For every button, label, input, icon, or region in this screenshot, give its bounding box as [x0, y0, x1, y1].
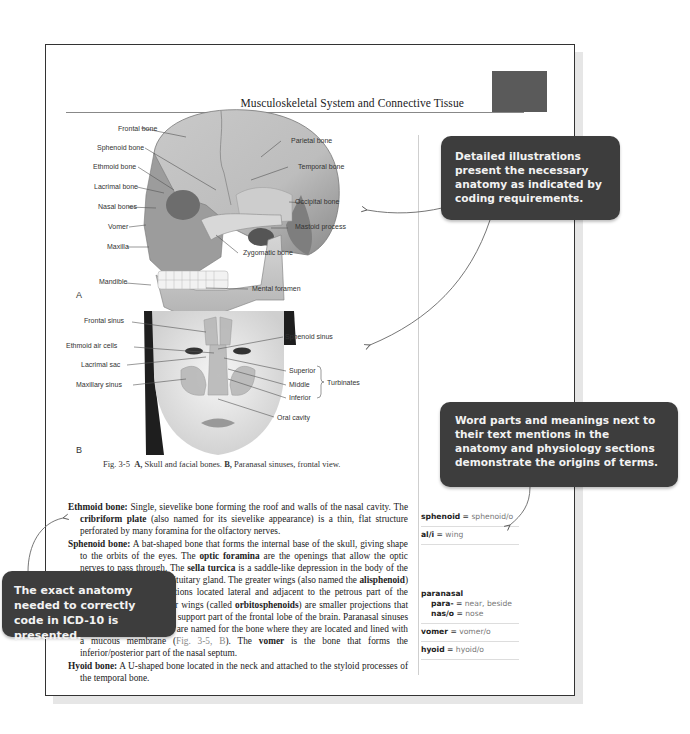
keyword-sella-turcica: sella turcica: [187, 563, 235, 573]
caption-b-text: Paranasal sinuses, frontal view.: [234, 459, 340, 469]
callout-illustrations: Detailed illustrations present the neces…: [441, 136, 620, 220]
keyword-cribriform-plate: cribriform plate: [80, 514, 146, 524]
glossary-def: sphenoid/o: [471, 512, 513, 521]
entry-hyoid-bone: Hyoid bone: A U-shaped bone located in t…: [68, 660, 408, 684]
term-sphenoid-bone: Sphenoid bone:: [68, 539, 130, 549]
glossary-def: vomer/o: [459, 627, 491, 636]
callout-exact-anatomy: The exact anatomy needed to correctly co…: [2, 571, 176, 637]
label-superior: Superior: [289, 367, 315, 374]
equals: =: [434, 530, 445, 539]
keyword-vomer: vomer: [259, 636, 284, 646]
label-lacrimal-sac: Lacrimal sac: [81, 361, 120, 368]
text: A U-shaped bone located in the neck and …: [80, 661, 408, 683]
glossary-term: vomer: [421, 627, 448, 636]
equals: =: [448, 627, 459, 636]
glossary-term: paranasal: [421, 589, 463, 598]
text: Single, sievelike bone forming the roof …: [128, 502, 408, 512]
caption-a-letter: A,: [134, 459, 142, 469]
caption-fig-number: Fig. 3-5: [103, 459, 130, 469]
keyword-optic-foramina: optic foramina: [199, 551, 259, 561]
label-oral-cavity: Oral cavity: [277, 414, 310, 421]
glossary-item-paranasal: paranasal para- = near, beside nas/o = n…: [421, 586, 519, 624]
glossary-item-sphenoid: sphenoid = sphenoid/o: [421, 509, 519, 527]
glossary-term: sphenoid: [421, 512, 460, 521]
glossary-term: nas/o: [431, 609, 454, 618]
chapter-tab-block: [492, 71, 547, 112]
glossary-sphenoid-group: sphenoid = sphenoid/o al/i = wing: [421, 509, 519, 545]
callout-word-parts: Word parts and meanings next to their te…: [440, 402, 678, 487]
glossary-def: wing: [445, 530, 463, 539]
term-ethmoid-bone: Ethmoid bone:: [68, 502, 128, 512]
term-hyoid-bone: Hyoid bone:: [68, 661, 117, 671]
glossary-def: nose: [465, 609, 483, 618]
panel-letter-b: B: [76, 445, 82, 455]
glossary-term: para-: [431, 599, 454, 608]
label-middle: Middle: [289, 381, 310, 388]
glossary-item-vomer: vomer = vomer/o: [421, 624, 519, 642]
face-sinus-illustration: [46, 45, 426, 465]
keyword-orbitosphenoids: orbitosphenoids: [235, 600, 299, 610]
glossary-term: al/i: [421, 530, 434, 539]
caption-a-text: Skull and facial bones.: [145, 459, 222, 469]
glossary-item-hyoid: hyoid = hyoid/o: [421, 642, 519, 660]
equals: =: [454, 599, 465, 608]
glossary-def: hyoid/o: [456, 645, 484, 654]
label-sphenoid-sinus: Sphenoid sinus: [285, 333, 333, 340]
figure-reference-link[interactable]: Fig. 3-5, B: [176, 636, 225, 646]
equals: =: [454, 609, 465, 618]
entry-ethmoid-bone: Ethmoid bone: Single, sievelike bone for…: [68, 501, 408, 538]
text: ). The: [225, 636, 258, 646]
caption-b-letter: B,: [224, 459, 232, 469]
glossary-paranasal-group: paranasal para- = near, beside nas/o = n…: [421, 586, 519, 660]
glossary-def: near, beside: [465, 599, 512, 608]
label-turbinates: Turbinates: [327, 379, 360, 386]
figure-caption: Fig. 3-5 A, Skull and facial bones. B, P…: [103, 459, 340, 469]
glossary-term: hyoid: [421, 645, 445, 654]
label-frontal-sinus: Frontal sinus: [84, 317, 124, 324]
label-inferior: Inferior: [289, 394, 311, 401]
keyword-alisphenoid: alisphenoid: [359, 575, 404, 585]
equals: =: [460, 512, 471, 521]
glossary-item-ali: al/i = wing: [421, 527, 519, 545]
label-ethmoid-air-cells: Ethmoid air cells: [66, 342, 117, 349]
label-maxillary-sinus: Maxillary sinus: [76, 381, 122, 388]
equals: =: [445, 645, 456, 654]
